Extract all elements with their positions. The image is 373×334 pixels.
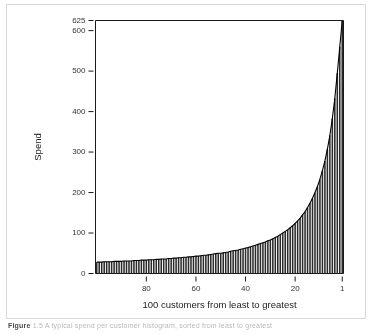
spend-bar-chart xyxy=(0,0,373,334)
figure-caption: Figure 1.5 A typical spend per customer … xyxy=(8,322,368,332)
caption-text: 1.5 A typical spend per customer histogr… xyxy=(33,322,273,329)
caption-prefix: Figure xyxy=(8,322,31,329)
